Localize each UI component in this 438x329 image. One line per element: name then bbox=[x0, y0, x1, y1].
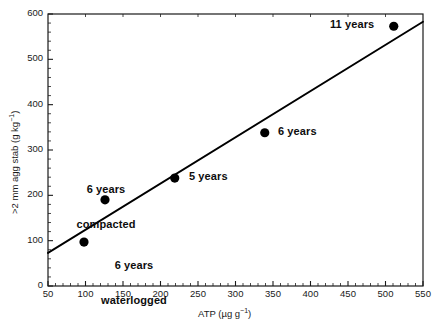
x-tick-label-450: 450 bbox=[328, 289, 368, 299]
annotation-6-years-compacted-line1: 6 years bbox=[58, 184, 154, 196]
x-tick-label-550: 550 bbox=[403, 289, 438, 299]
y-axis-major-ticks bbox=[48, 14, 53, 286]
data-point-11-years[interactable] bbox=[389, 22, 398, 31]
y-tick-label-0: 0 bbox=[15, 280, 43, 290]
x-axis-title-main: ATP (µg g bbox=[198, 308, 240, 319]
x-tick-label-500: 500 bbox=[366, 289, 406, 299]
x-tick-label-400: 400 bbox=[291, 289, 331, 299]
x-axis-title-tail: ) bbox=[248, 308, 251, 319]
annotation-11-years: 11 years bbox=[330, 19, 374, 31]
annotation-5-years: 5 years bbox=[189, 171, 228, 183]
x-tick-label-50: 50 bbox=[28, 289, 68, 299]
y-axis-title: >2 mm agg stab (g kg−1) bbox=[10, 111, 20, 214]
y-axis-title-superscript: −1 bbox=[8, 114, 15, 122]
annotation-6-years-waterlogged-line2: waterlogged bbox=[82, 295, 186, 307]
x-tick-label-350: 350 bbox=[253, 289, 293, 299]
annotation-6-years-waterlogged: 6 years waterlogged bbox=[82, 236, 186, 329]
data-point-6-years[interactable] bbox=[260, 128, 269, 137]
annotation-6-years-waterlogged-line1: 6 years bbox=[82, 260, 186, 272]
y-tick-label-100: 100 bbox=[15, 235, 43, 245]
figure-container: 50 100 150 200 250 300 350 400 450 500 5… bbox=[0, 0, 438, 329]
y-tick-label-500: 500 bbox=[15, 53, 43, 63]
x-axis-title-superscript: −1 bbox=[240, 307, 248, 314]
data-point-5-years[interactable] bbox=[170, 174, 179, 183]
annotation-6-years-compacted-line2: compacted bbox=[58, 219, 154, 231]
y-tick-label-400: 400 bbox=[15, 99, 43, 109]
y-axis-title-tail: ) bbox=[9, 111, 20, 114]
x-tick-label-300: 300 bbox=[216, 289, 256, 299]
y-tick-label-600: 600 bbox=[15, 8, 43, 18]
annotation-6-years: 6 years bbox=[278, 126, 317, 138]
y-axis-title-main: >2 mm agg stab (g kg bbox=[9, 122, 20, 214]
x-axis-title: ATP (µg g−1) bbox=[198, 309, 251, 319]
